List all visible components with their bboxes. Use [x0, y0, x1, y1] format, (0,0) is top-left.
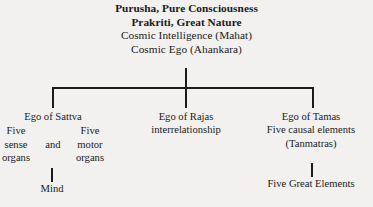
connector-stub-mind [51, 168, 53, 182]
branch-rajas-title: Ego of Rajas [128, 110, 244, 123]
connector-tick-right [312, 87, 314, 108]
connector-stub-great-elements [311, 163, 313, 177]
branch-tamas-title: Ego of Tamas [249, 110, 373, 123]
branch-tamas-line2: Five causal elements [249, 123, 373, 136]
leaf-five-great-elements: Five Great Elements [249, 178, 373, 189]
connector-tick-left [52, 87, 54, 108]
branch-sattva-subcolumns: Five sense organs and Five motor organs [0, 124, 112, 164]
branch-ego-of-tamas: Ego of Tamas Five causal elements (Tanma… [249, 110, 373, 150]
sattva-motor-line2: motor [70, 138, 110, 151]
branch-ego-of-rajas: Ego of Rajas interrelationship [128, 110, 244, 137]
diagram-header: Purusha, Pure Consciousness Prakriti, Gr… [0, 2, 373, 56]
branch-rajas-line2: interrelationship [128, 123, 244, 136]
header-line-mahat: Cosmic Intelligence (Mahat) [0, 29, 373, 43]
sattva-sense-line3: organs [0, 151, 36, 164]
samkhya-hierarchy-diagram: Purusha, Pure Consciousness Prakriti, Gr… [0, 0, 373, 207]
header-line-purusha: Purusha, Pure Consciousness [0, 2, 373, 16]
header-line-ahankara: Cosmic Ego (Ahankara) [0, 43, 373, 57]
header-line-prakriti: Prakriti, Great Nature [0, 16, 373, 30]
branch-sattva-title: Ego of Sattva [0, 110, 112, 123]
sattva-motor-organs: Five motor organs [70, 124, 110, 164]
sattva-joiner-and: and [36, 124, 70, 151]
leaf-mind: Mind [12, 183, 92, 194]
sattva-motor-line1: Five [70, 124, 110, 137]
sattva-motor-line3: organs [70, 151, 110, 164]
branch-tamas-line3: (Tanmatras) [249, 137, 373, 150]
sattva-sense-organs: Five sense organs [0, 124, 36, 164]
connector-horizontal-bar [52, 87, 314, 89]
sattva-sense-line1: Five [0, 124, 36, 137]
sattva-sense-line2: sense [0, 138, 36, 151]
branch-ego-of-sattva: Ego of Sattva Five sense organs and Five… [0, 110, 112, 165]
